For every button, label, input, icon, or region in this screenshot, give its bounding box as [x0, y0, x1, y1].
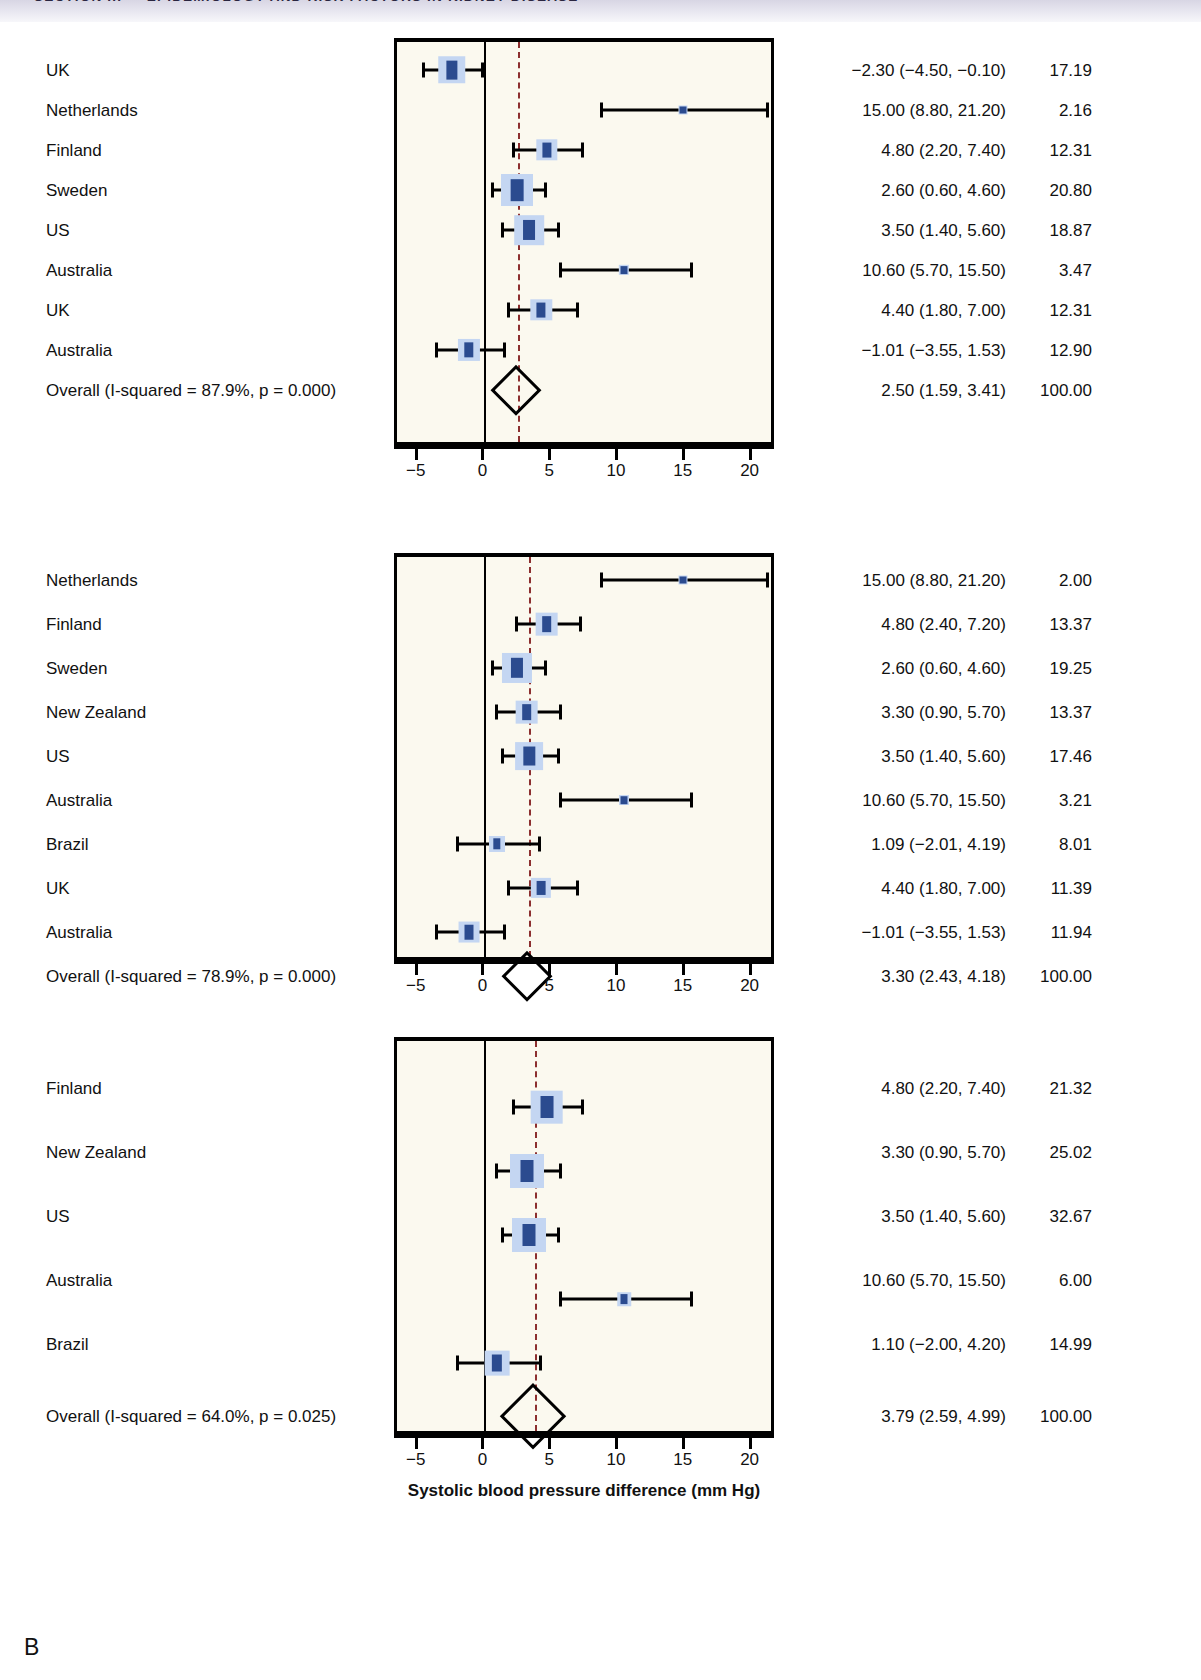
plot-area: [394, 1037, 774, 1435]
weight-percent-value: 3.47: [982, 262, 1092, 279]
point-estimate-marker: [679, 577, 686, 584]
ci-cap-right: [579, 617, 582, 632]
ci-cap-left: [501, 749, 504, 764]
x-axis-line: [394, 1435, 774, 1438]
ci-cap-left: [501, 1228, 504, 1243]
weight-percent-value: 17.46: [982, 748, 1092, 765]
ci-cap-left: [559, 263, 562, 278]
point-estimate-marker: [537, 881, 546, 895]
weight-percent-value: 11.39: [982, 880, 1092, 897]
effect-size-value: 10.60 (5.70, 15.50): [806, 262, 1006, 279]
ci-cap-right: [544, 661, 547, 676]
point-estimate-marker: [492, 1355, 502, 1372]
point-estimate-marker: [621, 266, 628, 274]
ci-cap-right: [557, 1228, 560, 1243]
weight-percent-value: 17.19: [982, 62, 1092, 79]
effect-size-value: 3.50 (1.40, 5.60): [806, 1208, 1006, 1225]
x-axis-tick: [481, 1438, 484, 1449]
x-axis-tick: [415, 449, 418, 460]
effect-size-value: −2.30 (−4.50, −0.10): [806, 62, 1006, 79]
study-label: US: [46, 222, 70, 239]
study-label: Australia: [46, 792, 112, 809]
weight-percent-value: 25.02: [982, 1144, 1092, 1161]
x-axis-tick-label: 10: [607, 977, 626, 994]
ci-cap-right: [544, 183, 547, 198]
weight-percent-value: 20.80: [982, 182, 1092, 199]
ci-cap-left: [600, 573, 603, 588]
ci-cap-right: [690, 793, 693, 808]
study-label: Netherlands: [46, 102, 138, 119]
effect-size-value: 1.09 (−2.01, 4.19): [806, 836, 1006, 853]
x-axis-tick: [548, 449, 551, 460]
ci-cap-left: [512, 1100, 515, 1115]
x-axis-tick-label: −5: [406, 1451, 425, 1468]
point-estimate-marker: [520, 1160, 533, 1182]
point-estimate-marker: [522, 704, 532, 720]
ci-cap-left: [495, 705, 498, 720]
study-label: Sweden: [46, 182, 107, 199]
x-axis-tick: [548, 1438, 551, 1449]
x-axis-line: [394, 961, 774, 964]
x-axis-tick-label: −5: [406, 977, 425, 994]
ci-cap-right: [690, 263, 693, 278]
point-estimate-marker: [493, 838, 500, 849]
ci-cap-right: [581, 1100, 584, 1115]
study-label: Australia: [46, 262, 112, 279]
study-label: Finland: [46, 142, 102, 159]
x-axis-tick-label: 10: [607, 1451, 626, 1468]
weight-percent-value: 13.37: [982, 704, 1092, 721]
effect-size-value: 10.60 (5.70, 15.50): [806, 792, 1006, 809]
effect-size-value: 2.60 (0.60, 4.60): [806, 182, 1006, 199]
ci-cap-right: [576, 303, 579, 318]
study-label: US: [46, 1208, 70, 1225]
effect-size-value: 3.50 (1.40, 5.60): [806, 222, 1006, 239]
weight-percent-value: 6.00: [982, 1272, 1092, 1289]
study-label: UK: [46, 302, 70, 319]
ci-cap-right: [581, 143, 584, 158]
effect-size-value: 3.30 (2.43, 4.18): [806, 968, 1006, 985]
effect-size-value: 15.00 (8.80, 21.20): [806, 102, 1006, 119]
point-estimate-marker: [542, 143, 551, 158]
study-label: Brazil: [46, 1336, 89, 1353]
point-estimate-marker: [621, 796, 628, 804]
effect-size-value: 2.60 (0.60, 4.60): [806, 660, 1006, 677]
ci-cap-left: [435, 925, 438, 940]
study-label: Australia: [46, 924, 112, 941]
ci-cap-right: [503, 343, 506, 358]
ci-cap-left: [512, 143, 515, 158]
effect-size-value: 3.79 (2.59, 4.99): [806, 1408, 1006, 1425]
x-axis-tick: [615, 1438, 618, 1449]
weight-percent-value: 14.99: [982, 1336, 1092, 1353]
x-axis-title: Systolic blood pressure difference (mm H…: [408, 1481, 760, 1501]
x-axis-tick: [615, 964, 618, 975]
point-estimate-marker: [511, 658, 523, 678]
point-estimate-marker: [621, 1294, 628, 1304]
x-axis-tick-label: 15: [673, 462, 692, 479]
x-axis-tick: [481, 449, 484, 460]
x-axis-tick: [682, 964, 685, 975]
effect-size-value: 3.30 (0.90, 5.70): [806, 1144, 1006, 1161]
x-axis-tick: [682, 449, 685, 460]
effect-size-value: 2.50 (1.59, 3.41): [806, 382, 1006, 399]
study-label: Brazil: [46, 836, 89, 853]
ci-cap-right: [539, 1356, 542, 1371]
point-estimate-marker: [511, 179, 524, 201]
x-axis-tick-label: 5: [545, 977, 554, 994]
ci-cap-right: [503, 925, 506, 940]
weight-percent-value: 19.25: [982, 660, 1092, 677]
weight-percent-value: 100.00: [982, 382, 1092, 399]
weight-percent-value: 100.00: [982, 968, 1092, 985]
effect-size-value: 4.80 (2.20, 7.40): [806, 142, 1006, 159]
effect-size-value: −1.01 (−3.55, 1.53): [806, 342, 1006, 359]
x-axis-tick: [415, 964, 418, 975]
weight-percent-value: 2.00: [982, 572, 1092, 589]
weight-percent-value: 21.32: [982, 1080, 1092, 1097]
weight-percent-value: 100.00: [982, 1408, 1092, 1425]
ci-cap-left: [491, 183, 494, 198]
weight-percent-value: 13.37: [982, 616, 1092, 633]
ci-cap-right: [766, 103, 769, 118]
x-axis-tick: [749, 1438, 752, 1449]
ci-cap-left: [456, 837, 459, 852]
ci-cap-right: [559, 705, 562, 720]
x-axis-tick-label: 15: [673, 977, 692, 994]
